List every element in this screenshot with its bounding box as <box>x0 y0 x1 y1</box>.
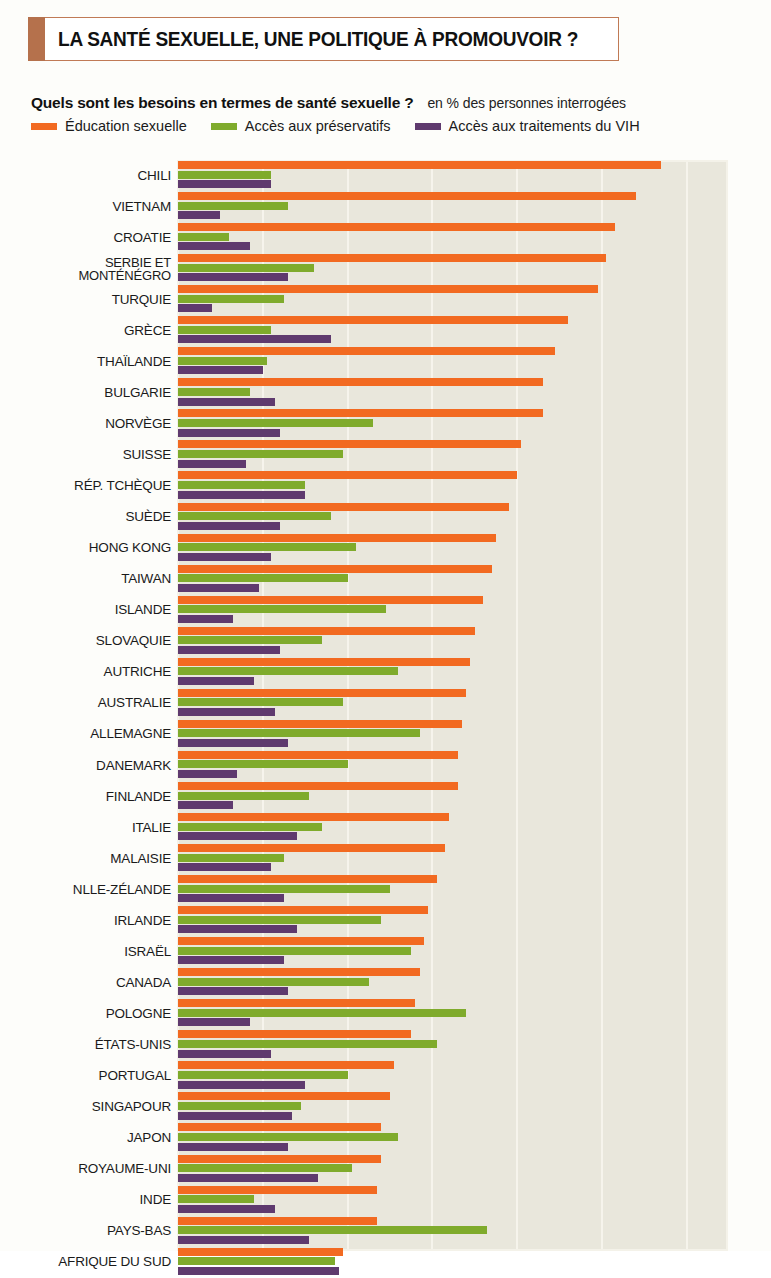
bar-vih <box>178 429 280 437</box>
title-box: LA SANTÉ SEXUELLE, UNE POLITIQUE À PROMO… <box>45 17 619 61</box>
bar-education <box>178 627 475 635</box>
bar-education <box>178 1061 394 1069</box>
chart-row: MALAISIE <box>0 843 745 874</box>
bar-education <box>178 875 437 883</box>
row-bars <box>178 844 738 873</box>
bar-education <box>178 596 483 604</box>
row-bars <box>178 937 738 966</box>
bar-education <box>178 1248 343 1256</box>
row-bars <box>178 1186 738 1215</box>
row-label-pays-bas: PAYS-BAS <box>0 1216 171 1247</box>
row-bars <box>178 1123 738 1152</box>
row-label-pologne: POLOGNE <box>0 998 171 1029</box>
bar-education <box>178 223 615 231</box>
bar-education <box>178 782 458 790</box>
bar-preservatifs <box>178 1071 348 1079</box>
bar-education <box>178 503 509 511</box>
chart-row: ALLEMAGNE <box>0 719 745 750</box>
bar-education <box>178 937 424 945</box>
bar-preservatifs <box>178 1133 398 1141</box>
chart-row: AFRIQUE DU SUD <box>0 1247 745 1278</box>
row-label-irlande: IRLANDE <box>0 905 171 936</box>
bar-education <box>178 968 420 976</box>
bar-preservatifs <box>178 419 373 427</box>
bar-preservatifs <box>178 916 381 924</box>
legend-item-education: Éducation sexuelle <box>31 118 187 134</box>
chart-row: ROYAUME-UNI <box>0 1154 745 1185</box>
row-label-taiwan: TAIWAN <box>0 564 171 595</box>
row-bars <box>178 378 738 407</box>
row-bars <box>178 503 738 532</box>
bar-vih <box>178 491 305 499</box>
bar-vih <box>178 1018 250 1026</box>
bar-preservatifs <box>178 667 398 675</box>
bar-preservatifs <box>178 295 284 303</box>
row-label-allemagne: ALLEMAGNE <box>0 719 171 750</box>
bar-vih <box>178 304 212 312</box>
bar-preservatifs <box>178 326 271 334</box>
row-bars <box>178 751 738 780</box>
row-label-turquie: TURQUIE <box>0 284 171 315</box>
chart-row: PORTUGAL <box>0 1060 745 1091</box>
row-label-gr-ce: GRÈCE <box>0 315 171 346</box>
chart-row: SERBIE ETMONTÉNÉGRO <box>0 253 745 284</box>
chart-legend: Éducation sexuelle Accès aux préservatif… <box>31 118 761 134</box>
bar-preservatifs <box>178 1195 254 1203</box>
bar-preservatifs <box>178 1102 301 1110</box>
bar-education <box>178 316 568 324</box>
chart-row: SLOVAQUIE <box>0 626 745 657</box>
bar-education <box>178 720 462 728</box>
chart-row: BULGARIE <box>0 377 745 408</box>
row-bars <box>178 1061 738 1090</box>
row-label-inde: INDE <box>0 1185 171 1216</box>
chart-row: ÉTATS-UNIS <box>0 1029 745 1060</box>
bar-vih <box>178 211 220 219</box>
bar-education <box>178 347 555 355</box>
bar-preservatifs <box>178 854 284 862</box>
legend-swatch-icon-education <box>31 123 57 130</box>
chart-row: SUÈDE <box>0 502 745 533</box>
row-label-autriche: AUTRICHE <box>0 657 171 688</box>
bar-education <box>178 534 496 542</box>
chart-row: VIETNAM <box>0 191 745 222</box>
row-bars <box>178 999 738 1028</box>
row-label-su-de: SUÈDE <box>0 502 171 533</box>
bar-preservatifs <box>178 512 331 520</box>
bar-vih <box>178 460 246 468</box>
bar-preservatifs <box>178 605 386 613</box>
row-label-suisse: SUISSE <box>0 439 171 470</box>
bar-education <box>178 1155 381 1163</box>
row-bars <box>178 906 738 935</box>
bar-education <box>178 285 598 293</box>
page-title: LA SANTÉ SEXUELLE, UNE POLITIQUE À PROMO… <box>45 27 578 51</box>
bar-preservatifs <box>178 885 390 893</box>
bar-education <box>178 409 543 417</box>
chart-row: INDE <box>0 1185 745 1216</box>
bar-education <box>178 192 636 200</box>
bar-preservatifs <box>178 823 322 831</box>
bar-chart: CHILIVIETNAMCROATIESERBIE ETMONTÉNÉGROTU… <box>0 152 745 1251</box>
bar-preservatifs <box>178 636 322 644</box>
bar-vih <box>178 335 331 343</box>
row-bars <box>178 471 738 500</box>
row-bars <box>178 627 738 656</box>
chart-row: POLOGNE <box>0 998 745 1029</box>
row-bars <box>178 875 738 904</box>
bar-education <box>178 689 466 697</box>
chart-row: JAPON <box>0 1122 745 1153</box>
chart-row: IRLANDE <box>0 905 745 936</box>
row-label-hong-kong: HONG KONG <box>0 533 171 564</box>
row-label-tha-lande: THAÏLANDE <box>0 346 171 377</box>
row-label-japon: JAPON <box>0 1122 171 1153</box>
row-label-royaume-uni: ROYAUME-UNI <box>0 1154 171 1185</box>
bar-preservatifs <box>178 729 420 737</box>
bar-vih <box>178 1143 288 1151</box>
bar-vih <box>178 1112 292 1120</box>
row-label-finlande: FINLANDE <box>0 781 171 812</box>
bar-preservatifs <box>178 543 356 551</box>
row-label--tats-unis: ÉTATS-UNIS <box>0 1029 171 1060</box>
bar-education <box>178 1186 377 1194</box>
bar-education <box>178 813 449 821</box>
bar-education <box>178 999 415 1007</box>
bar-vih <box>178 832 297 840</box>
